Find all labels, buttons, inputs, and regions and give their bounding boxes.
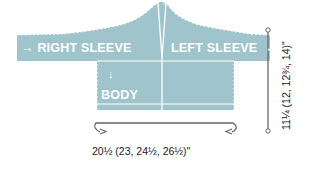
length-dimension-label: 11¼ (12, 12¾, 14)" [280, 41, 292, 130]
body-label: BODY [101, 88, 138, 102]
right-sleeve-label: → RIGHT SLEEVE [21, 41, 131, 55]
left-sleeve-label: LEFT SLEEVE ← [171, 41, 278, 55]
right-arrow-icon: → [21, 41, 34, 55]
length-bottom-endpoint [266, 129, 270, 133]
body-arrow-icon: ↓ [108, 68, 114, 80]
width-dimension-label: 20½ (23, 24½, 26½)" [92, 145, 190, 157]
left-arrow-icon: ← [265, 41, 278, 55]
width-arrow-left-icon [100, 129, 106, 134]
sleeves-shape [17, 2, 270, 110]
width-arrow-right-icon [226, 129, 232, 134]
length-top-endpoint [266, 28, 270, 32]
width-dimension-bracket [95, 123, 237, 132]
